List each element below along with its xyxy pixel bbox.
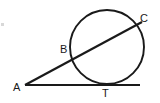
point-label-b: B xyxy=(60,44,67,55)
point-label-c: C xyxy=(140,13,148,24)
circle-shape xyxy=(70,10,144,84)
point-label-t: T xyxy=(102,88,109,99)
point-label-a: A xyxy=(13,82,20,93)
geometry-figure: A B C T xyxy=(0,0,160,103)
stray-speck xyxy=(1,23,4,26)
geometry-diagram xyxy=(0,0,160,103)
